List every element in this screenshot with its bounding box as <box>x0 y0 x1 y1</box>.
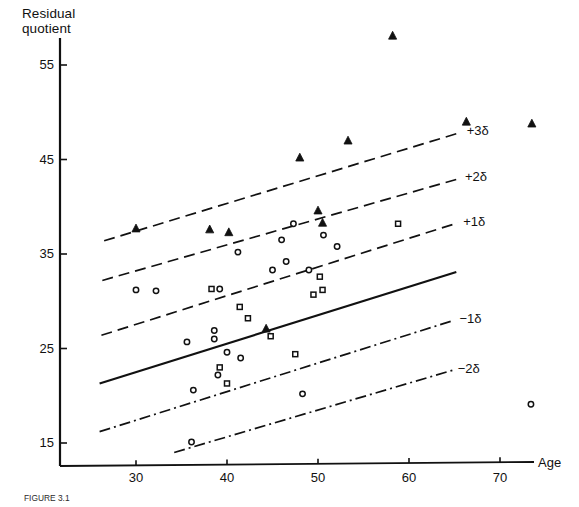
data-point-square <box>311 292 316 297</box>
reference-line <box>100 272 457 384</box>
reference-line-label: +2δ <box>465 169 487 184</box>
x-tick-label: 30 <box>121 470 151 485</box>
reference-line-label: +3δ <box>467 123 489 138</box>
x-tick-label: 70 <box>485 470 515 485</box>
reference-line <box>100 320 455 432</box>
y-tick-label: 45 <box>28 152 54 167</box>
data-point-square <box>217 365 222 370</box>
data-point-triangle <box>319 218 327 226</box>
data-point-circle <box>212 336 217 341</box>
data-point-square <box>320 287 325 292</box>
data-point-circle <box>306 267 311 272</box>
figure-caption: FIGURE 3.1 <box>24 493 564 507</box>
reference-line-label: +1δ <box>463 214 485 229</box>
reference-line <box>102 178 460 280</box>
y-tick-label: 55 <box>28 57 54 72</box>
data-point-triangle <box>314 206 322 214</box>
y-tick-label: 25 <box>28 341 54 356</box>
x-tick-label: 40 <box>212 470 242 485</box>
data-point-circle <box>212 328 217 333</box>
data-point-triangle <box>296 153 304 161</box>
data-point-circle <box>528 402 533 407</box>
data-point-circle <box>300 391 305 396</box>
data-point-square <box>317 274 322 279</box>
data-point-triangle <box>262 324 270 332</box>
data-point-circle <box>153 288 158 293</box>
reference-line-label: −2δ <box>458 361 480 376</box>
x-axis-title: Age <box>538 455 561 470</box>
data-point-square <box>209 286 214 291</box>
data-point-square <box>268 334 273 339</box>
data-point-circle <box>235 249 240 254</box>
data-point-square <box>225 381 230 386</box>
data-point-circle <box>238 355 243 360</box>
data-point-square <box>293 352 298 357</box>
data-point-triangle <box>206 225 214 233</box>
data-points <box>132 31 536 444</box>
data-point-square <box>396 221 401 226</box>
data-point-circle <box>224 350 229 355</box>
axes <box>60 38 534 466</box>
y-tick-label: 35 <box>28 246 54 261</box>
data-point-circle <box>283 259 288 264</box>
y-axis-title: Residual quotient <box>22 6 75 36</box>
data-point-circle <box>189 439 194 444</box>
data-point-circle <box>215 372 220 377</box>
scatter-plot-canvas <box>0 0 579 507</box>
x-tick-label: 50 <box>303 470 333 485</box>
data-point-triangle <box>389 31 397 39</box>
x-tick-label: 60 <box>394 470 424 485</box>
data-point-triangle <box>344 136 352 144</box>
data-point-square <box>237 304 242 309</box>
data-point-circle <box>279 237 284 242</box>
data-point-circle <box>291 221 296 226</box>
reference-line <box>104 132 462 241</box>
reference-line <box>101 223 458 335</box>
data-point-triangle <box>528 119 536 127</box>
reference-line-label: −1δ <box>460 311 482 326</box>
data-point-square <box>245 316 250 321</box>
data-point-circle <box>321 232 326 237</box>
y-tick-label: 15 <box>28 435 54 450</box>
data-point-circle <box>217 286 222 291</box>
axis-ticks <box>60 65 500 465</box>
data-point-circle <box>133 287 138 292</box>
data-point-triangle <box>225 228 233 236</box>
data-point-triangle <box>132 224 140 232</box>
data-point-circle <box>191 387 196 392</box>
data-point-circle <box>334 244 339 249</box>
reference-line <box>174 370 452 452</box>
data-point-circle <box>270 267 275 272</box>
data-point-circle <box>184 339 189 344</box>
figure-container: Residual quotient Age 1525354555 3040506… <box>0 0 579 507</box>
x-axis-line <box>60 462 534 466</box>
